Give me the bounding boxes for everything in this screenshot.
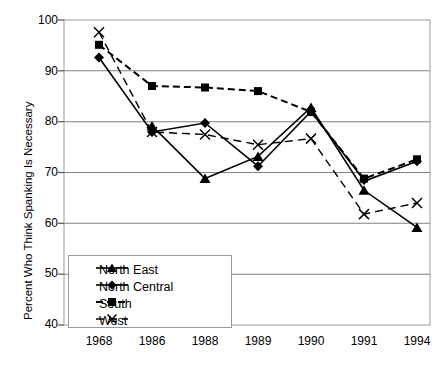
data-point-south-1968 <box>95 41 103 49</box>
data-point-south-1989 <box>254 87 262 95</box>
legend-symbol-north-east-triangle-icon <box>95 261 129 275</box>
legend-item-south[interactable]: South <box>95 295 132 312</box>
legend-item-north-central[interactable]: North Central <box>95 278 173 295</box>
legend-item-west[interactable]: West <box>95 312 127 329</box>
legend: North East North Central South West <box>68 255 232 328</box>
data-point-south-1988 <box>201 84 209 92</box>
legend-symbol-north-central-diamond-icon <box>95 278 129 292</box>
y-axis-ticks <box>58 20 64 325</box>
data-point-south-1986 <box>148 82 156 90</box>
legend-symbol-west-x-icon <box>95 312 129 326</box>
legend-symbol-south-square-icon <box>95 295 129 309</box>
legend-item-north-east[interactable]: North East <box>95 261 158 278</box>
line-chart: Percent Who Think Spanking Is Necessary … <box>0 0 437 365</box>
